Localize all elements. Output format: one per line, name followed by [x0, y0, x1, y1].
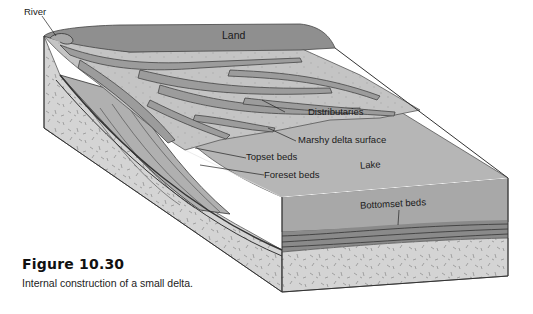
label-lake: Lake	[360, 159, 381, 170]
figure-caption: Internal construction of a small delta.	[22, 277, 193, 289]
label-distributaries: Distributaries	[308, 107, 363, 117]
label-foreset-beds: Foreset beds	[264, 170, 319, 180]
label-land: Land	[222, 30, 245, 41]
label-marshy-delta-surface: Marshy delta surface	[298, 135, 386, 145]
delta-diagram: River Land Distributaries Marshy delta s…	[0, 0, 533, 314]
label-river: River	[24, 7, 46, 17]
label-topset-beds: Topset beds	[246, 152, 297, 162]
figure-number: Figure 10.30	[22, 256, 124, 272]
